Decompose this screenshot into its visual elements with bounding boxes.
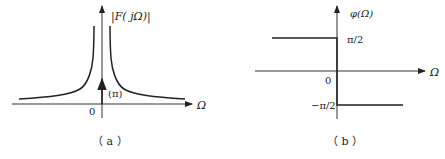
impulse-label: (π)	[108, 88, 122, 99]
x-axis-label: Ω	[196, 99, 206, 112]
origin-label: 0	[325, 75, 331, 86]
ytick-neg: −π/2	[311, 100, 336, 111]
panel-a-magnitude-spectrum: |F( jΩ)| Ω 0 (π) （ a ）	[12, 6, 206, 148]
y-axis-label: φ(Ω)	[350, 8, 373, 19]
caption-a: （ a ）	[92, 135, 128, 148]
ytick-pos: π/2	[347, 34, 363, 45]
panel-b-phase-spectrum: φ(Ω) Ω 0 π/2 −π/2 （ b ）	[255, 6, 439, 148]
y-axis-label: |F( jΩ)|	[111, 10, 151, 24]
x-axis-label: Ω	[429, 66, 439, 79]
origin-label: 0	[89, 106, 95, 117]
figure: |F( jΩ)| Ω 0 (π) （ a ） φ(Ω) Ω 0 π/2 −π/2…	[0, 0, 445, 159]
curve-left	[19, 26, 94, 99]
caption-b: （ b ）	[327, 135, 363, 148]
